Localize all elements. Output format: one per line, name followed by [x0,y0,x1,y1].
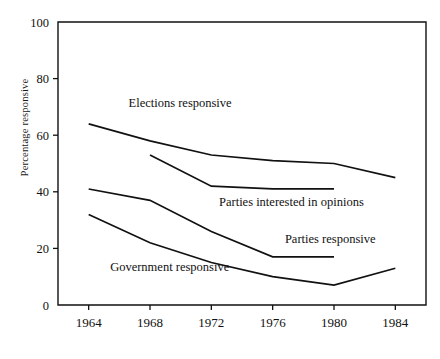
series-annotation-label: Government responsive [110,260,230,274]
x-tick-label: 1980 [321,315,347,330]
y-tick-label: 40 [37,185,50,199]
y-tick-label: 0 [43,299,49,313]
data-series-elections-responsive [89,124,396,178]
series-annotation-label: Elections responsive [129,96,233,110]
line-chart-plot: 020406080100196419681972197619801984Elec… [0,0,440,359]
series-annotation-label: Parties interested in opinions [219,195,364,209]
y-tick-label: 20 [37,242,50,256]
x-tick-label: 1968 [137,315,163,330]
x-tick-label: 1972 [198,315,224,330]
x-tick-label: 1984 [382,315,409,330]
data-series-government-responsive [89,214,396,285]
y-tick-label: 80 [37,72,50,86]
data-series-parties-interested-in-opinions [150,155,334,189]
x-tick-label: 1976 [260,315,287,330]
y-tick-label: 60 [37,129,50,143]
y-tick-label: 100 [30,16,49,30]
chart-container: Percentage responsive 020406080100196419… [0,0,440,359]
series-annotation-label: Parties responsive [285,232,376,246]
x-tick-label: 1964 [76,315,103,330]
